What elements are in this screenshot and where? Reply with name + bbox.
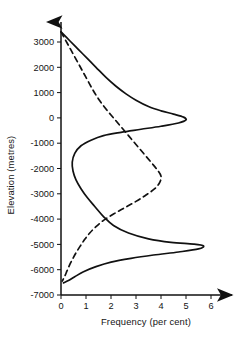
y-tick-label: 3000 (34, 37, 54, 47)
hypsometric-curve-figure: 3000200010000-1000-2000-3000-4000-5000-6… (0, 0, 248, 338)
x-tick-label: 6 (208, 301, 213, 311)
x-tick-label: 0 (58, 301, 63, 311)
y-axis-ticks: 3000200010000-1000-2000-3000-4000-5000-6… (31, 37, 62, 300)
data-series-layer (61, 32, 204, 283)
y-tick-label: 0 (49, 113, 54, 123)
y-tick-label: -7000 (31, 290, 55, 300)
y-axis-title: Elevation (metres) (5, 136, 16, 215)
y-tick-label: -6000 (31, 265, 55, 275)
y-tick-label: -1000 (31, 138, 55, 148)
y-tick-label: -2000 (31, 164, 55, 174)
x-axis-title: Frequency (per cent) (101, 316, 191, 327)
y-tick-label: -4000 (31, 214, 55, 224)
x-tick-label: 3 (133, 301, 138, 311)
y-tick-label: -5000 (31, 240, 55, 250)
x-tick-label: 1 (83, 301, 88, 311)
chart-canvas: 3000200010000-1000-2000-3000-4000-5000-6… (0, 0, 248, 338)
y-tick-label: 2000 (34, 63, 54, 73)
y-tick-label: 1000 (34, 88, 54, 98)
axes-group (61, 22, 232, 295)
x-tick-label: 5 (183, 301, 188, 311)
x-axis-ticks: 0123456 (58, 295, 213, 311)
y-tick-label: -3000 (31, 189, 55, 199)
x-tick-label: 4 (158, 301, 163, 311)
x-tick-label: 2 (108, 301, 113, 311)
data-curve-dashed (61, 32, 161, 281)
